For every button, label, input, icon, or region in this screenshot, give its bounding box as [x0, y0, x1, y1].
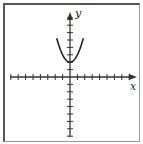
y-axis-label: y: [74, 7, 82, 20]
axes: [10, 12, 137, 137]
parabola-graph: x y: [0, 0, 143, 144]
x-axis-label: x: [130, 80, 137, 93]
